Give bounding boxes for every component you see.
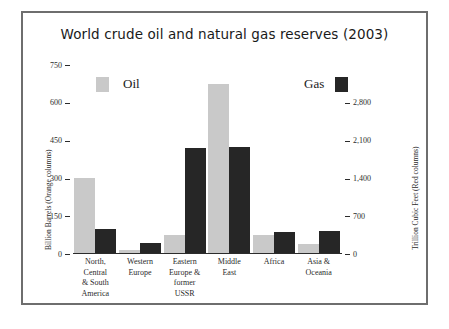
x-tick-label-line: Oceania [290,268,347,279]
y2-tick-mark [345,103,350,104]
y-axis-ticks: 0150300450600750 [38,65,73,254]
bar-group [207,65,252,254]
y2-tick: 2,100 [342,135,371,146]
y-tick-mark [65,216,70,217]
bar-group [73,65,118,254]
bar-group [296,65,341,254]
y-tick: 450 [50,135,73,146]
y-tick-label: 600 [50,97,62,108]
legend-swatch-gas [335,77,348,92]
y-tick-mark [65,65,70,66]
bar-gas [319,231,340,254]
y2-axis-label: Trillion Cubic Feet (Red columns) [411,147,420,250]
x-tick-label-line: Asia & [290,257,347,268]
y2-tick-label: 2,100 [353,136,371,145]
bar-oil [164,235,185,254]
legend-item-gas: Gas [304,76,348,92]
y-tick: 300 [50,173,73,184]
x-tick-label: Asia &Oceania [290,257,347,278]
y2-tick-mark [345,179,350,180]
bar-oil [253,235,274,254]
y2-tick: 700 [342,211,365,222]
y-tick-label: 750 [50,60,62,71]
bar-group [118,65,163,254]
y2-tick-mark [345,254,350,255]
y-tick-mark [65,103,70,104]
bar-gas [185,148,206,254]
chart-figure: World crude oil and natural gas reserves… [0,0,449,329]
bar-group [252,65,297,254]
bar-oil [74,178,95,254]
y2-tick-label: 1,400 [353,174,371,183]
y-tick-label: 0 [58,249,62,260]
legend-item-oil: Oil [96,76,140,92]
y2-tick-label: 0 [353,250,357,259]
y-tick: 750 [50,60,73,71]
x-tick-label-line: & South [67,278,124,289]
x-tick-label-line: USSR [156,289,213,300]
y-tick-mark [65,141,70,142]
x-tick-label-line: America [67,289,124,300]
y-tick-mark [65,254,70,255]
chart-title: World crude oil and natural gas reserves… [0,26,449,42]
y-tick: 150 [50,211,73,222]
y2-tick: 2,800 [342,97,371,108]
y2-tick-mark [345,216,350,217]
y-tick-label: 450 [50,135,62,146]
x-axis-line [73,253,342,254]
bar-oil [208,84,229,254]
y2-tick-label: 2,800 [353,98,371,107]
bar-gas [95,229,116,254]
bar-gas [274,232,295,254]
y-tick: 600 [50,97,73,108]
y-tick-mark [65,179,70,180]
legend-label-oil: Oil [123,76,140,92]
y-tick-label: 300 [50,173,62,184]
legend-label-gas: Gas [304,76,324,92]
bar-gas [229,147,250,254]
bar-group [162,65,207,254]
y2-axis-ticks: 07001,4002,1002,800 [342,65,388,254]
y2-tick-label: 700 [353,212,365,221]
x-tick-label-line: former [156,278,213,289]
legend-swatch-oil [96,77,109,92]
x-tick-label-line: East [201,268,258,279]
y-tick-label: 150 [50,211,62,222]
y2-tick: 1,400 [342,173,371,184]
plot-area [73,65,341,254]
y2-tick-mark [345,141,350,142]
